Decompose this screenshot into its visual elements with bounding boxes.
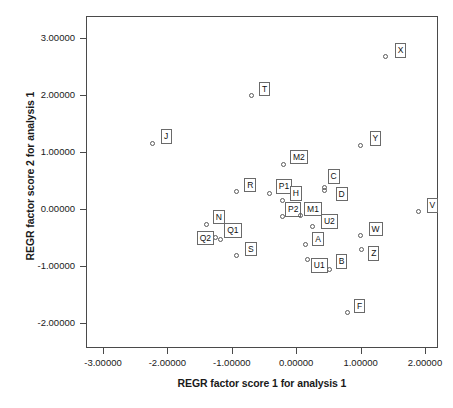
x-tick-label: 2.00000 — [380, 357, 453, 368]
x-tick-mark — [361, 348, 362, 354]
y-tick-label: 3.00000 — [0, 32, 75, 43]
y-tick-mark — [80, 152, 86, 153]
x-tick-mark — [232, 348, 233, 354]
data-point-marker — [150, 141, 155, 146]
data-point-label: R — [244, 178, 256, 193]
data-point-label: S — [245, 242, 257, 257]
data-point-label: X — [395, 43, 407, 58]
data-point-marker — [280, 214, 285, 219]
x-tick-mark — [103, 348, 104, 354]
data-point-label: W — [369, 222, 383, 237]
data-point-marker — [383, 54, 388, 59]
data-point-label: H — [290, 186, 302, 201]
x-tick-mark — [425, 348, 426, 354]
data-point-label: U1 — [311, 258, 328, 273]
data-point-label: C — [328, 169, 340, 184]
data-point-label: Q2 — [197, 231, 214, 246]
y-tick-label: -1.00000 — [0, 260, 75, 271]
x-tick-mark — [296, 348, 297, 354]
x-axis-title: REGR factor score 1 for analysis 1 — [86, 377, 438, 389]
data-point-marker — [345, 310, 350, 315]
scatter-plot: REGR factor score 2 for analysis 1 REGR … — [0, 0, 453, 408]
data-point-marker — [359, 247, 364, 252]
y-tick-label: 1.00000 — [0, 146, 75, 157]
y-tick-label: 2.00000 — [0, 89, 75, 100]
data-point-marker — [249, 93, 254, 98]
data-point-label: Q1 — [224, 223, 241, 238]
data-point-label: Y — [370, 131, 382, 146]
data-point-marker — [298, 213, 303, 218]
y-tick-mark — [80, 95, 86, 96]
data-point-label: F — [354, 299, 365, 314]
data-point-label: A — [312, 232, 324, 247]
data-point-label: J — [161, 129, 172, 144]
data-point-label: V — [427, 198, 439, 213]
y-tick-mark — [80, 209, 86, 210]
data-point-marker — [358, 143, 363, 148]
data-point-label: M1 — [304, 202, 322, 217]
data-point-label: B — [336, 254, 348, 269]
x-tick-mark — [167, 348, 168, 354]
data-point-label: U2 — [321, 214, 338, 229]
y-tick-mark — [80, 38, 86, 39]
data-point-marker — [218, 237, 223, 242]
y-tick-mark — [80, 323, 86, 324]
y-tick-label: 0.00000 — [0, 203, 75, 214]
data-point-label: T — [259, 82, 270, 97]
data-point-label: M2 — [290, 150, 308, 165]
data-point-marker — [416, 209, 421, 214]
data-point-marker — [267, 191, 272, 196]
data-point-label: Z — [368, 246, 379, 261]
data-point-label: D — [336, 187, 348, 202]
y-tick-mark — [80, 266, 86, 267]
data-point-label: N — [213, 210, 225, 225]
plot-frame — [86, 16, 438, 348]
y-tick-label: -2.00000 — [0, 317, 75, 328]
data-point-marker — [305, 257, 310, 262]
